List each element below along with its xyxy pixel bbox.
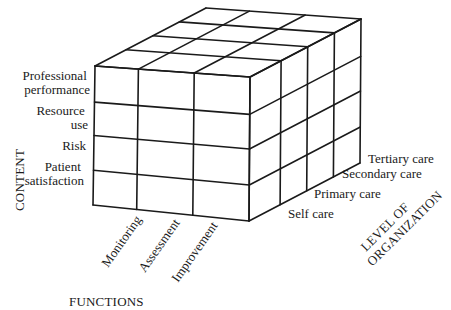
content-label-professional-performance: Professional performance xyxy=(22,68,90,97)
content-label-risk: Risk xyxy=(62,138,86,153)
top-face-column-line xyxy=(95,66,250,77)
level-label-self-care: Self care xyxy=(288,206,334,221)
front-face-row-line xyxy=(94,170,250,185)
functions-axis: Monitoring Assessment Improvement FUNCTI… xyxy=(69,212,221,309)
functions-axis-title: FUNCTIONS xyxy=(69,294,144,309)
cube-drawing: CONTENT Professional performance Resourc… xyxy=(0,0,451,310)
right-face-level-line xyxy=(280,61,281,205)
right-face-level-line xyxy=(249,77,250,221)
front-face-row-line xyxy=(95,102,250,114)
top-face-column-line xyxy=(153,36,308,47)
organization-axis: Self care Primary care Secondary care Te… xyxy=(288,151,445,269)
content-label-resource-use: Resource use xyxy=(36,103,88,132)
content-label-patient-satisfaction: Patient satisfaction xyxy=(25,159,85,188)
content-axis: CONTENT Professional performance Resourc… xyxy=(12,68,90,211)
front-face-row-line xyxy=(94,136,250,150)
top-face-column-line xyxy=(126,50,281,61)
right-face-level-line xyxy=(333,33,334,177)
top-face-column-line xyxy=(179,22,334,33)
right-face-depth-line xyxy=(250,91,361,149)
top-face-depth-line xyxy=(95,8,206,66)
level-label-primary-care: Primary care xyxy=(314,186,381,201)
right-face-level-line xyxy=(307,47,308,191)
right-face-level-line xyxy=(360,19,361,163)
level-label-secondary-care: Secondary care xyxy=(342,166,422,181)
level-label-tertiary-care: Tertiary care xyxy=(368,151,434,166)
top-face-depth-line xyxy=(138,11,249,69)
right-face-depth-line xyxy=(250,56,361,114)
top-face-column-line xyxy=(206,8,361,19)
cube-diagram: CONTENT Professional performance Resourc… xyxy=(0,0,451,310)
